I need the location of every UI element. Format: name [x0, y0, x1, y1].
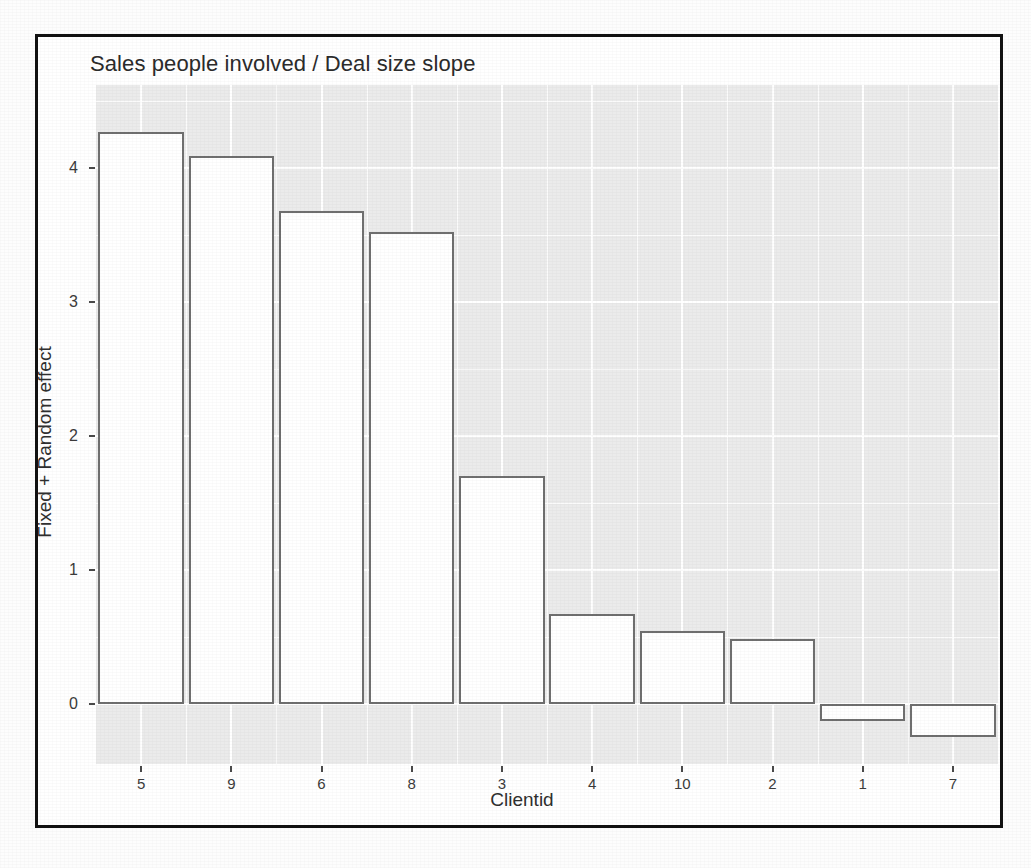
gridline-vertical-major — [952, 85, 954, 764]
y-tick-mark — [89, 703, 95, 705]
y-tick-mark — [89, 301, 95, 303]
x-tick-mark — [681, 766, 683, 772]
gridline-vertical-minor — [547, 85, 548, 764]
x-tick-mark — [862, 766, 864, 772]
gridline-vertical-minor — [818, 85, 819, 764]
y-tick-mark — [89, 435, 95, 437]
y-tick-mark — [89, 167, 95, 169]
x-tick-mark — [321, 766, 323, 772]
bar — [549, 614, 634, 704]
y-tick-mark — [89, 569, 95, 571]
x-axis-title: Clientid — [38, 789, 1006, 811]
x-tick-mark — [411, 766, 413, 772]
gridline-vertical-minor — [908, 85, 909, 764]
y-tick-label: 1 — [38, 561, 78, 579]
bar — [279, 211, 364, 704]
figure-frame: Sales people involved / Deal size slope … — [35, 34, 1003, 828]
gridline-vertical-major — [862, 85, 864, 764]
gridline-vertical-minor — [637, 85, 638, 764]
y-tick-label: 0 — [38, 695, 78, 713]
gridline-vertical-minor — [457, 85, 458, 764]
bar — [640, 631, 725, 703]
bar — [189, 156, 274, 704]
gridline-vertical-minor — [367, 85, 368, 764]
plot-panel — [96, 85, 998, 764]
chart-title: Sales people involved / Deal size slope — [90, 51, 475, 77]
bar — [98, 132, 183, 704]
x-tick-mark — [501, 766, 503, 772]
y-tick-label: 2 — [38, 427, 78, 445]
x-tick-mark — [772, 766, 774, 772]
x-tick-mark — [591, 766, 593, 772]
bar — [459, 476, 544, 704]
gridline-vertical-minor — [186, 85, 187, 764]
gridline-vertical-minor — [727, 85, 728, 764]
bar — [369, 232, 454, 703]
x-tick-mark — [140, 766, 142, 772]
x-tick-mark — [230, 766, 232, 772]
gridline-vertical-minor — [276, 85, 277, 764]
y-tick-label: 4 — [38, 159, 78, 177]
y-tick-label: 3 — [38, 293, 78, 311]
x-tick-mark — [952, 766, 954, 772]
scanned-page: Sales people involved / Deal size slope … — [0, 0, 1031, 868]
bar — [910, 704, 995, 737]
bar — [820, 704, 905, 721]
bar — [730, 639, 815, 703]
